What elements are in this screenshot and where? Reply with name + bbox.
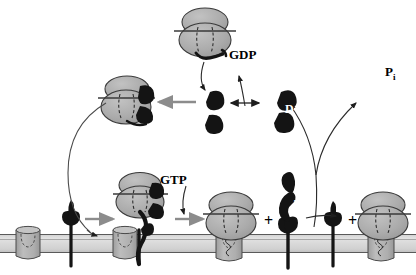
trimer-upper-left xyxy=(98,76,155,125)
label-plus-1: + xyxy=(264,213,273,229)
label-pi-subscript: i xyxy=(393,72,396,82)
label-pi-main: P xyxy=(385,64,393,79)
betagamma-anchor-center-right xyxy=(324,201,342,266)
trimer-right-bottom xyxy=(355,192,411,240)
trimer-top-center xyxy=(174,8,236,58)
label-gdp: GDP xyxy=(229,48,256,61)
arrow-trimer-dissociation xyxy=(201,62,205,90)
label-alpha-t: T xyxy=(294,198,302,210)
label-pi: Pi xyxy=(385,65,395,82)
receptor-bound-mid-left xyxy=(113,226,137,259)
trimer-center-bottom xyxy=(203,192,259,240)
betagamma-anchor-left xyxy=(62,200,80,266)
alpha-free-center xyxy=(205,91,224,134)
label-alpha-d: D xyxy=(285,103,294,115)
label-plus-2: + xyxy=(348,213,357,229)
figure-canvas: GDP GTP Pi D T + + xyxy=(0,0,416,275)
arrow-pi-release xyxy=(316,103,356,175)
receptor-unbound-left xyxy=(16,226,40,259)
diagram-svg xyxy=(0,0,416,275)
arrow-gtp-binding xyxy=(183,186,186,214)
plasma-membrane xyxy=(0,234,416,253)
label-gtp: GTP xyxy=(160,173,187,186)
arrow-gdp-release xyxy=(239,76,245,106)
